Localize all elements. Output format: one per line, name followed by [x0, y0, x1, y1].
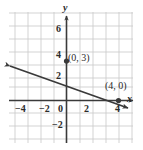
- x-tick-label-minus-2: −2: [39, 104, 50, 114]
- y-tick-label-2: 2: [56, 71, 61, 81]
- y-intercept-point-label: (0, 3): [68, 53, 90, 63]
- graph-canvas: [0, 0, 143, 150]
- y-tick-label-6: 6: [56, 24, 61, 34]
- y-axis-name-label: y: [63, 3, 67, 13]
- x-tick-label-minus-4: −4: [15, 104, 26, 114]
- x-tick-label-2: 2: [84, 104, 89, 114]
- x-tick-label-4: 4: [115, 104, 120, 114]
- x-axis-name-label: x: [127, 94, 132, 104]
- x-tick-label-zero: 0: [58, 104, 63, 114]
- x-intercept-point-label: (4, 0): [105, 81, 127, 91]
- coordinate-plane-figure: y x 6 4 2 −2 −4 −2 0 2 4 (0, 3) (4, 0): [0, 0, 143, 150]
- y-tick-label-minus-2: −2: [52, 120, 63, 130]
- y-tick-label-4: 4: [56, 50, 61, 60]
